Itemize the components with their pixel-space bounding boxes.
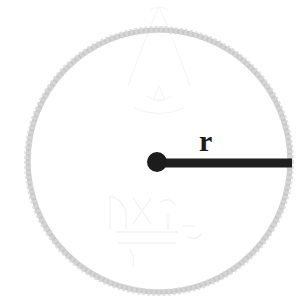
radius-label: r <box>199 126 212 156</box>
center-dot <box>147 152 167 172</box>
geometry-layer <box>0 0 308 308</box>
circle-radius-diagram: r <box>0 0 308 308</box>
